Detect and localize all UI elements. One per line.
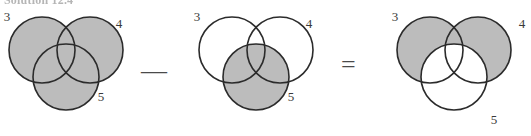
venn-right-label-3: 3 [392,9,399,24]
venn-left-label-3: 3 [4,9,11,24]
venn-middle-label-5: 5 [288,89,295,104]
venn-diagram-circle-5: 3 4 5 [190,0,335,136]
venn-right-svg: 3 4 5 [388,0,531,136]
venn-right-label-4: 4 [519,16,526,31]
venn-left-label-4: 4 [116,16,123,31]
venn-diagram-union-3-4-minus-5: 3 4 5 [388,0,531,136]
minus-sign: — [141,58,167,84]
venn-middle-label-4: 4 [306,16,313,31]
figure-canvas: Solution 12.4 3 4 5 [0,0,531,136]
venn-left-svg: 3 4 5 [0,0,145,136]
venn-middle-label-3: 3 [194,9,201,24]
venn-diagram-union-3-4-5: 3 4 5 [0,0,145,136]
venn-middle-svg: 3 4 5 [190,0,335,136]
venn-left-label-5: 5 [98,89,105,104]
venn-right-label-5: 5 [491,112,498,127]
equals-sign: = [341,52,356,78]
